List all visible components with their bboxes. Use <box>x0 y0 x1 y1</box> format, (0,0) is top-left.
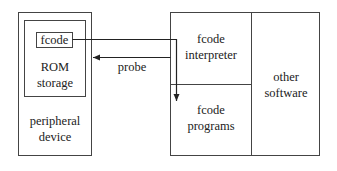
other-software-label-line2: software <box>252 86 320 100</box>
fcode-programs-label: fcode programs <box>170 103 252 133</box>
fcode-interpreter-label: fcode interpreter <box>170 32 252 62</box>
rom-storage-label: ROM storage <box>24 60 86 90</box>
fcode-programs-label-line2: programs <box>170 119 252 133</box>
peripheral-device-label-line2: device <box>18 130 92 144</box>
other-software-label-line1: other <box>252 70 320 84</box>
peripheral-device-label: peripheral device <box>18 114 92 144</box>
probe-label: probe <box>112 60 152 74</box>
rom-storage-label-line1: ROM <box>24 60 86 74</box>
fcode-box-label: fcode <box>36 33 73 47</box>
fcode-interpreter-label-line2: interpreter <box>170 48 252 62</box>
other-software-label: other software <box>252 70 320 100</box>
fcode-interpreter-label-line1: fcode <box>170 32 252 46</box>
rom-storage-label-line2: storage <box>24 76 86 90</box>
fcode-programs-label-line1: fcode <box>170 103 252 117</box>
peripheral-device-label-line1: peripheral <box>18 114 92 128</box>
